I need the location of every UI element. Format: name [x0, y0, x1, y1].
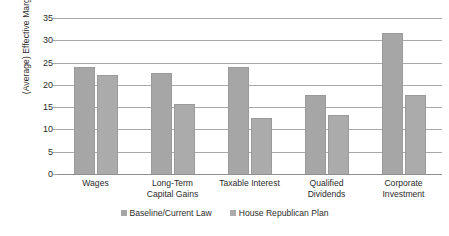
y-axis-title: (Average) Effective Marginal Tax Rate	[21, 0, 35, 106]
bar-chart-figure: (Average) Effective Marginal Tax Rate 35…	[0, 0, 449, 236]
gridline	[57, 174, 442, 175]
bar-group	[57, 18, 134, 174]
legend-item-baseline: Baseline/Current Law	[121, 208, 212, 218]
legend-item-house-republican-plan: House Republican Plan	[230, 208, 329, 218]
y-axis-tick-label: 25	[43, 58, 53, 68]
bar[interactable]	[405, 95, 426, 174]
x-axis-category-label: Taxable Interest	[211, 178, 288, 200]
x-axis-category-label: QualifiedDividends	[288, 178, 365, 200]
y-axis-tick-label: 35	[43, 13, 53, 23]
bar[interactable]	[305, 95, 326, 174]
y-axis-tick-label: 15	[43, 102, 53, 112]
bar-group	[211, 18, 288, 174]
bar[interactable]	[151, 73, 172, 174]
y-axis-tick-label: 20	[43, 80, 53, 90]
x-axis-category-labels: WagesLong-TermCapital GainsTaxable Inter…	[57, 178, 442, 200]
x-axis-category-label: Wages	[57, 178, 134, 200]
bar[interactable]	[174, 104, 195, 174]
x-axis-category-label: CorporateInvestment	[365, 178, 442, 200]
y-axis-tick-mark	[53, 174, 57, 175]
y-axis-tick-label: 10	[43, 124, 53, 134]
bar-groups	[57, 18, 442, 174]
legend-label-house-republican-plan: House Republican Plan	[239, 208, 329, 218]
plot-area: 35302520151050	[57, 18, 442, 174]
y-axis-tick-label: 0	[48, 169, 53, 179]
legend-label-baseline: Baseline/Current Law	[130, 208, 212, 218]
bar-group	[288, 18, 365, 174]
bar[interactable]	[251, 118, 272, 174]
x-axis-category-label: Long-TermCapital Gains	[134, 178, 211, 200]
bar[interactable]	[74, 67, 95, 174]
y-axis-tick-label: 5	[48, 147, 53, 157]
chart-legend: Baseline/Current Law House Republican Pl…	[0, 208, 449, 218]
bar[interactable]	[228, 67, 249, 174]
legend-swatch-icon	[230, 210, 236, 216]
bar-group	[365, 18, 442, 174]
bar-group	[134, 18, 211, 174]
bar[interactable]	[97, 75, 118, 175]
bar[interactable]	[382, 33, 403, 174]
bar[interactable]	[328, 115, 349, 174]
legend-swatch-icon	[121, 210, 127, 216]
y-axis-tick-label: 30	[43, 35, 53, 45]
